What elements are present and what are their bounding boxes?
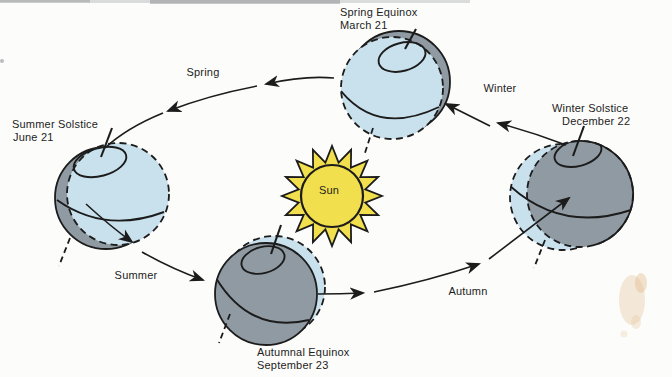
day-hemisphere [341, 37, 443, 139]
orbit-arrow-winter-2 [446, 104, 490, 126]
winter-solstice-title: Winter Solstice [552, 102, 628, 114]
sun: Sun [282, 146, 382, 246]
night-hemisphere [215, 243, 317, 345]
axis-line-south [59, 238, 70, 266]
autumnal-equinox-date: September 23 [257, 359, 329, 371]
autumnal-equinox-title: Autumnal Equinox [257, 346, 350, 358]
sun-disc [301, 165, 363, 227]
paper-stain [619, 273, 647, 338]
day-hemisphere [67, 143, 169, 245]
season-label-autumn: Autumn [448, 285, 487, 297]
earth-summer-solstice [55, 128, 169, 266]
spring-equinox-title: Spring Equinox [340, 6, 418, 18]
season-label-winter: Winter [484, 82, 517, 94]
sun-label: Sun [319, 184, 339, 196]
orbit-arrow-spring-2 [168, 86, 257, 111]
earth-winter-solstice [510, 126, 633, 268]
spring-equinox-date: March 21 [340, 19, 387, 31]
orbit-arrow-spring-1 [266, 77, 334, 84]
season-label-spring: Spring [187, 66, 220, 78]
seasons-orbit-diagram: Sun Spring Equinox March 21 Summer Solst… [0, 0, 672, 377]
summer-solstice-date: June 21 [13, 131, 54, 143]
seasons-diagram-page: Sun Spring Equinox March 21 Summer Solst… [0, 0, 672, 377]
summer-solstice-title: Summer Solstice [12, 118, 98, 130]
season-label-summer: Summer [115, 269, 158, 281]
earth-spring-equinox [341, 29, 450, 156]
earth-autumnal-equinox [215, 225, 325, 345]
orbit-arrow-winter-1 [498, 123, 566, 145]
winter-solstice-date: December 22 [562, 115, 630, 127]
